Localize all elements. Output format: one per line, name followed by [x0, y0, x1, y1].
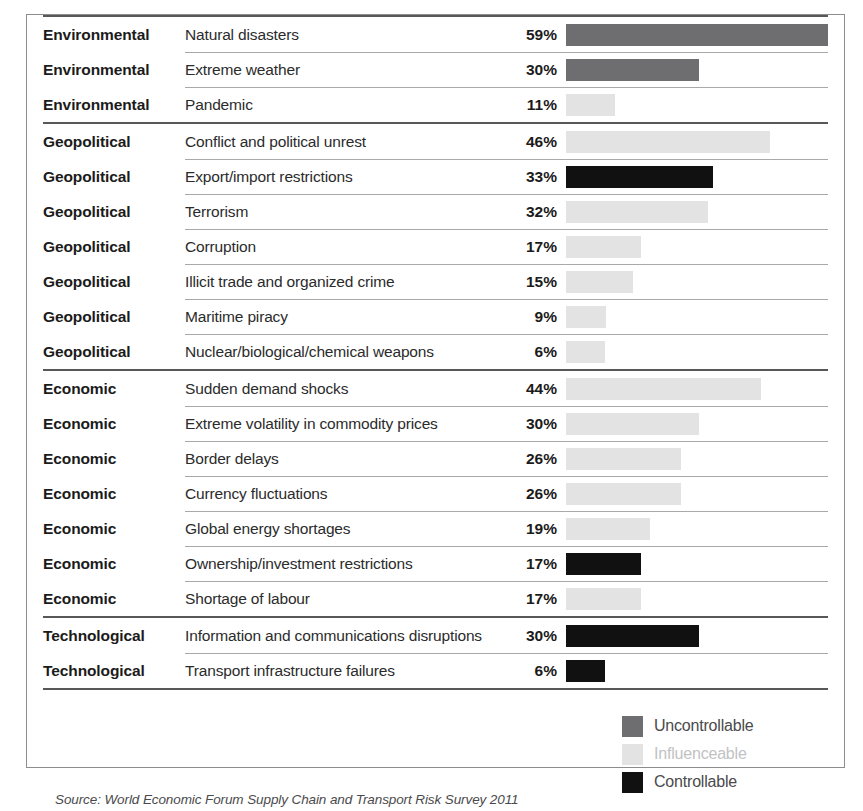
risk-bar-uncontrollable	[566, 24, 828, 46]
row-divider	[185, 476, 828, 477]
risk-percentage-value: 44%	[511, 380, 566, 398]
table-row[interactable]: GeopoliticalExport/import restrictions33…	[27, 159, 844, 194]
table-row[interactable]: EconomicCurrency fluctuations26%	[27, 476, 844, 511]
risk-category-label: Geopolitical	[43, 308, 185, 326]
risk-bar-track	[566, 518, 828, 540]
risk-percentage-value: 11%	[511, 96, 566, 114]
table-row[interactable]: EnvironmentalNatural disasters59%	[27, 17, 844, 52]
risk-percentage-value: 17%	[511, 238, 566, 256]
risk-bar-track	[566, 483, 828, 505]
legend-label: Uncontrollable	[654, 717, 753, 735]
risk-category-label: Environmental	[43, 26, 185, 44]
risk-category-label: Economic	[43, 485, 185, 503]
row-divider	[185, 653, 828, 654]
risk-label: Terrorism	[185, 203, 511, 221]
table-row[interactable]: GeopoliticalTerrorism32%	[27, 194, 844, 229]
row-divider	[185, 87, 828, 88]
risk-bar-track	[566, 553, 828, 575]
risk-bar-influenceable	[566, 201, 708, 223]
table-row[interactable]: EconomicExtreme volatility in commodity …	[27, 406, 844, 441]
risk-category-label: Economic	[43, 415, 185, 433]
risk-percentage-value: 30%	[511, 627, 566, 645]
risk-percentage-value: 26%	[511, 485, 566, 503]
risk-section: GeopoliticalConflict and political unres…	[27, 122, 844, 369]
table-row[interactable]: EnvironmentalPandemic11%	[27, 87, 844, 122]
risk-category-label: Economic	[43, 590, 185, 608]
risk-percentage-value: 19%	[511, 520, 566, 538]
legend-swatch-icon	[622, 716, 643, 737]
risk-bar-controllable	[566, 625, 699, 647]
risk-percentage-value: 30%	[511, 61, 566, 79]
risk-bar-influenceable	[566, 271, 633, 293]
risk-bar-influenceable	[566, 131, 770, 153]
table-row[interactable]: EnvironmentalExtreme weather30%	[27, 52, 844, 87]
legend-item[interactable]: Uncontrollable	[622, 712, 753, 740]
table-row[interactable]: TechnologicalInformation and communicati…	[27, 618, 844, 653]
source-note: Source: World Economic Forum Supply Chai…	[55, 792, 519, 807]
risk-label: Natural disasters	[185, 26, 511, 44]
risk-bar-influenceable	[566, 94, 615, 116]
risk-section: EconomicSudden demand shocks44%EconomicE…	[27, 369, 844, 616]
risk-category-label: Environmental	[43, 96, 185, 114]
risk-category-label: Economic	[43, 450, 185, 468]
risk-percentage-value: 32%	[511, 203, 566, 221]
risk-bar-controllable	[566, 553, 641, 575]
risk-percentage-value: 17%	[511, 590, 566, 608]
risk-category-label: Geopolitical	[43, 238, 185, 256]
table-row[interactable]: EconomicSudden demand shocks44%	[27, 371, 844, 406]
risk-percentage-value: 9%	[511, 308, 566, 326]
table-row[interactable]: EconomicOwnership/investment restriction…	[27, 546, 844, 581]
table-row[interactable]: GeopoliticalNuclear/biological/chemical …	[27, 334, 844, 369]
risk-bar-track	[566, 341, 828, 363]
risk-bar-controllable	[566, 166, 713, 188]
table-row[interactable]: EconomicBorder delays26%	[27, 441, 844, 476]
risk-category-label: Economic	[43, 555, 185, 573]
risk-bar-influenceable	[566, 448, 681, 470]
legend-zone: UncontrollableInfluenceableControllable	[27, 690, 844, 786]
risk-section: EnvironmentalNatural disasters59%Environ…	[27, 15, 844, 122]
risk-label: Illicit trade and organized crime	[185, 273, 511, 291]
risk-category-label: Geopolitical	[43, 273, 185, 291]
risk-bar-influenceable	[566, 341, 605, 363]
legend-item[interactable]: Influenceable	[622, 740, 753, 768]
risk-percentage-value: 15%	[511, 273, 566, 291]
risk-label: Information and communications disruptio…	[185, 627, 511, 645]
risk-bar-uncontrollable	[566, 59, 699, 81]
risk-category-label: Geopolitical	[43, 203, 185, 221]
risk-percentage-value: 30%	[511, 415, 566, 433]
risk-label: Maritime piracy	[185, 308, 511, 326]
risk-category-label: Economic	[43, 380, 185, 398]
table-row[interactable]: EconomicShortage of labour17%	[27, 581, 844, 616]
row-divider	[185, 406, 828, 407]
risk-label: Border delays	[185, 450, 511, 468]
risk-category-label: Environmental	[43, 61, 185, 79]
risk-bar-track	[566, 448, 828, 470]
risk-label: Global energy shortages	[185, 520, 511, 538]
row-divider	[185, 264, 828, 265]
risk-bar-track	[566, 236, 828, 258]
source-zone: Source: World Economic Forum Supply Chai…	[27, 786, 844, 811]
risk-category-label: Technological	[43, 627, 185, 645]
table-row[interactable]: GeopoliticalIllicit trade and organized …	[27, 264, 844, 299]
risk-category-label: Geopolitical	[43, 343, 185, 361]
risk-bar-track	[566, 413, 828, 435]
legend: UncontrollableInfluenceableControllable	[622, 712, 753, 796]
risk-bar-track	[566, 271, 828, 293]
row-divider	[185, 441, 828, 442]
risk-section: TechnologicalInformation and communicati…	[27, 616, 844, 688]
risk-bar-influenceable	[566, 378, 761, 400]
risk-bar-track	[566, 94, 828, 116]
table-row[interactable]: TechnologicalTransport infrastructure fa…	[27, 653, 844, 688]
risk-label: Shortage of labour	[185, 590, 511, 608]
risk-percentage-value: 46%	[511, 133, 566, 151]
risk-category-label: Technological	[43, 662, 185, 680]
row-divider	[185, 194, 828, 195]
table-row[interactable]: GeopoliticalMaritime piracy9%	[27, 299, 844, 334]
risk-label: Conflict and political unrest	[185, 133, 511, 151]
table-row[interactable]: GeopoliticalCorruption17%	[27, 229, 844, 264]
table-row[interactable]: GeopoliticalConflict and political unres…	[27, 124, 844, 159]
risk-bar-track	[566, 59, 828, 81]
risk-bar-track	[566, 625, 828, 647]
table-row[interactable]: EconomicGlobal energy shortages19%	[27, 511, 844, 546]
legend-label: Influenceable	[654, 745, 747, 763]
